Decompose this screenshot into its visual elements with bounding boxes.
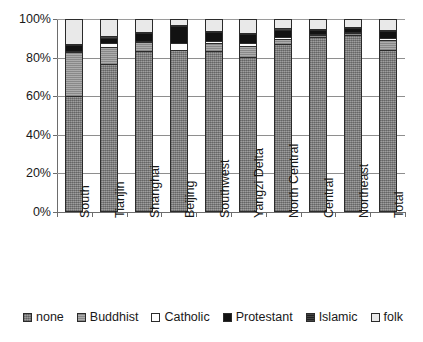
bar-segment-protestant [171, 26, 187, 43]
bar-segment-folk [275, 20, 291, 28]
bar-total [379, 19, 397, 212]
bar-segment-catholic [171, 43, 187, 50]
x-axis-tick-mark [161, 213, 162, 217]
bar-segment-folk [380, 20, 396, 30]
legend-swatch-none-icon [23, 313, 32, 322]
bar-segment-folk [240, 20, 256, 33]
x-axis-tick-mark [266, 213, 267, 217]
x-axis-label-southwest: Southwest [219, 160, 232, 218]
y-axis-tick-label: 0% [33, 206, 51, 219]
legend-entry-buddhist[interactable]: Buddhist [77, 311, 139, 324]
x-axis-tick-mark [57, 213, 58, 217]
bar-segment-buddhist [240, 46, 256, 57]
bar-segment-protestant [380, 31, 396, 39]
bar-segment-folk [206, 20, 222, 31]
bar-segment-buddhist [206, 43, 222, 51]
x-axis-label-central: Central [323, 178, 336, 218]
legend-entry-folk[interactable]: folk [371, 311, 403, 324]
bar-segment-folk [310, 20, 326, 29]
x-axis-tick-mark [301, 213, 302, 217]
bar-segment-folk [136, 20, 152, 32]
y-axis-tick-label: 80% [26, 52, 51, 65]
legend-entry-catholic[interactable]: Catholic [151, 311, 209, 324]
legend-label-protestant: Protestant [236, 311, 293, 324]
y-axis-tick-label: 100% [19, 13, 51, 26]
x-axis-label-tianjin: Tianjin [114, 182, 127, 218]
y-axis-tick-label: 40% [26, 129, 51, 142]
bar-segment-protestant [275, 30, 291, 38]
y-axis-tick-label: 20% [26, 167, 51, 180]
x-axis-label-north-central: North Central [288, 144, 301, 218]
bar-segment-protestant [240, 34, 256, 43]
x-axis-tick-mark [127, 213, 128, 217]
bar-south [65, 19, 83, 212]
bar-segment-folk [101, 20, 117, 36]
x-axis-tick-mark [370, 213, 371, 217]
legend-swatch-folk-icon [371, 313, 380, 322]
x-axis-tick-mark [92, 213, 93, 217]
stacked-column-chart: 0%20%40%60%80%100% SouthTianjinShanghaiB… [0, 0, 423, 342]
bar-segment-buddhist [380, 40, 396, 50]
bar-segment-folk [345, 20, 361, 27]
legend-entry-islamic[interactable]: Islamic [306, 311, 358, 324]
x-axis-label-south: South [79, 185, 92, 218]
bar-segment-folk [66, 20, 82, 44]
y-axis-tick-label: 60% [26, 90, 51, 103]
legend-label-folk: folk [384, 311, 403, 324]
legend-entry-protestant[interactable]: Protestant [223, 311, 293, 324]
x-axis-label-northeast: Northeast [358, 164, 371, 218]
legend-swatch-protestant-icon [223, 313, 232, 322]
legend-label-catholic: Catholic [164, 311, 209, 324]
x-axis-label-shanghai: Shanghai [149, 165, 162, 218]
x-axis-label-beijing: Beijing [184, 180, 197, 218]
x-axis-tick-mark [405, 213, 406, 217]
legend-label-buddhist: Buddhist [90, 311, 139, 324]
x-axis-tick-mark [196, 213, 197, 217]
legend-label-islamic: Islamic [319, 311, 358, 324]
legend-swatch-islamic-icon [306, 313, 315, 322]
x-axis-tick-mark [231, 213, 232, 217]
bar-segment-protestant [136, 33, 152, 41]
legend-label-none: none [36, 311, 64, 324]
chart-legend: noneBuddhistCatholicProtestantIslamicfol… [23, 309, 413, 325]
bar-segment-buddhist [66, 52, 82, 97]
legend-entry-none[interactable]: none [23, 311, 64, 324]
x-axis-tick-mark [335, 213, 336, 217]
x-axis-label-yangzi-delta: Yangzi Delta [253, 148, 266, 218]
legend-swatch-catholic-icon [151, 313, 160, 322]
bar-segment-buddhist [101, 47, 117, 64]
legend-swatch-buddhist-icon [77, 313, 86, 322]
bar-segment-protestant [206, 32, 222, 41]
bar-segment-buddhist [136, 42, 152, 51]
x-axis-label-total: Total [393, 192, 406, 218]
bar-segment-none [380, 50, 396, 211]
